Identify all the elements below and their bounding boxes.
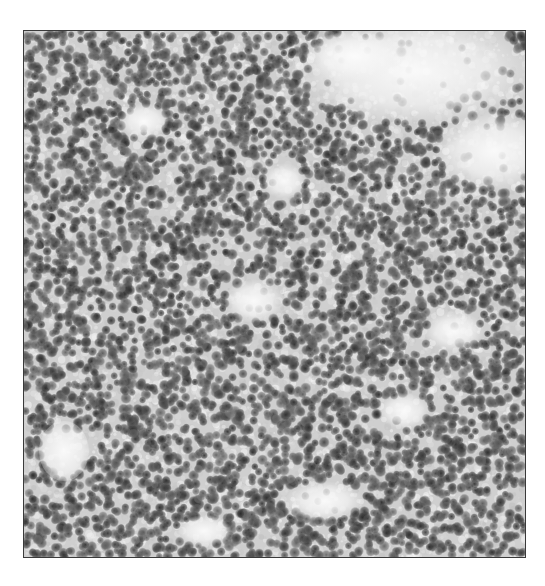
micrograph-texture [24, 31, 525, 557]
micrograph-image: Grayscale electron micrograph showing de… [23, 30, 526, 558]
